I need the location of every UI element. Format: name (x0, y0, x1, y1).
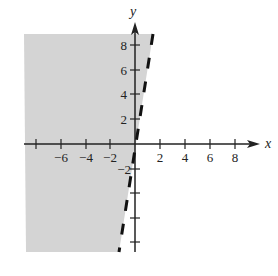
x-tick-label: 4 (182, 150, 189, 165)
x-tick-label: −2 (103, 150, 117, 165)
x-tick-label: −6 (54, 150, 68, 165)
x-tick-label: −4 (79, 150, 93, 165)
x-tick-label: 6 (207, 150, 214, 165)
inequality-graph: −6 −4 −2 2 4 6 8 8 6 4 2 −2 x y (0, 0, 278, 276)
x-tick-label: 2 (157, 150, 164, 165)
y-tick-label: 4 (121, 87, 128, 102)
y-axis-label: y (128, 4, 137, 19)
x-tick-label: 8 (232, 150, 239, 165)
y-tick-label: −2 (117, 162, 131, 177)
y-tick-label: 6 (121, 63, 128, 78)
shaded-region (24, 34, 153, 252)
x-axis-label: x (264, 136, 272, 151)
y-tick-label: 8 (121, 38, 128, 53)
y-tick-label: 2 (121, 112, 128, 127)
